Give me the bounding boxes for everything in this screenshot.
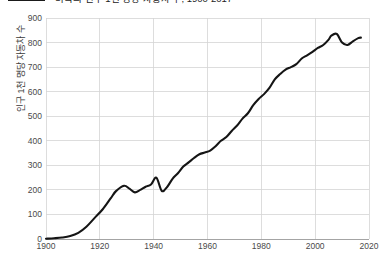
gridlines (46, 18, 369, 239)
y-tick-label: 100 (2, 209, 42, 219)
x-tick-label: 1920 (77, 241, 123, 251)
data-series-line (46, 34, 361, 239)
legend-label: 미국의 인구 1천 명당 자동차 수, 1900-2017 (55, 0, 232, 7)
y-tick-label: 800 (2, 38, 42, 48)
y-tick-label: 600 (2, 87, 42, 97)
chart-figure: 미국의 인구 1천 명당 자동차 수, 1900-2017 인구 1천 명당 자… (0, 0, 389, 264)
y-tick-label: 700 (2, 62, 42, 72)
y-tick-label: 400 (2, 136, 42, 146)
y-tick-label: 900 (2, 13, 42, 23)
chart-canvas (46, 18, 369, 239)
plot-area (46, 18, 369, 239)
y-tick-label: 500 (2, 111, 42, 121)
chart-legend: 미국의 인구 1천 명당 자동차 수, 1900-2017 (0, 0, 232, 7)
x-tick-label: 2000 (292, 241, 338, 251)
x-tick-label: 1960 (185, 241, 231, 251)
x-tick-label: 1900 (23, 241, 69, 251)
y-tick-label: 300 (2, 160, 42, 170)
x-tick-label: 1940 (131, 241, 177, 251)
y-axis-tick-labels: 0100200300400500600700800900 (0, 18, 42, 239)
x-tick-label: 2020 (346, 241, 389, 251)
x-tick-label: 1980 (238, 241, 284, 251)
y-tick-label: 200 (2, 185, 42, 195)
x-axis-tick-labels: 1900192019401960198020002020 (46, 241, 369, 257)
